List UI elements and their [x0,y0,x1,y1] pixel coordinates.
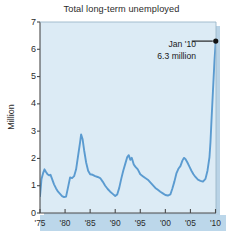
x-tick-label: '10 [210,219,221,227]
y-tick-label: 0 [22,209,36,218]
x-tick-label: '85 [85,219,96,227]
x-tick-label: '80 [60,219,71,227]
axis-lines [0,0,243,243]
y-tick-label: 5 [22,72,36,81]
x-tick-label: '95 [135,219,146,227]
x-tick-label: '90 [110,219,121,227]
y-tick-label: 3 [22,127,36,136]
y-tick-label: 6 [22,45,36,54]
y-axis-tick-labels: 01234567 [20,0,36,243]
y-tick-label: 4 [22,99,36,108]
y-tick-label: 7 [22,18,36,27]
x-tick-label: '05 [185,219,196,227]
chart-figure: Total long-term unemployed Million 01234… [0,0,243,243]
y-tick-label: 1 [22,181,36,190]
x-axis-tick-labels: '75'80'85'90'95'00'05'10 [0,219,243,233]
x-tick-label: '75 [35,219,46,227]
annotation-date-label: Jan '10 [150,39,196,50]
x-tick-label: '00 [160,219,171,227]
y-tick-label: 2 [22,154,36,163]
annotation-value-label: 6.3 million [142,51,196,62]
